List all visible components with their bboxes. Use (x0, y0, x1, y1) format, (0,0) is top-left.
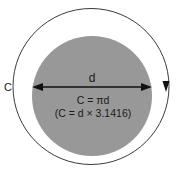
circle-diagram: C d C = πd (C = d × 3.1416) (0, 0, 181, 174)
diameter-label: d (89, 71, 96, 85)
circumference-label: C (4, 81, 12, 93)
formula-line-1: C = πd (77, 94, 110, 106)
diagram-canvas: C d C = πd (C = d × 3.1416) (0, 0, 181, 174)
formula-line-2: (C = d × 3.1416) (55, 107, 131, 119)
